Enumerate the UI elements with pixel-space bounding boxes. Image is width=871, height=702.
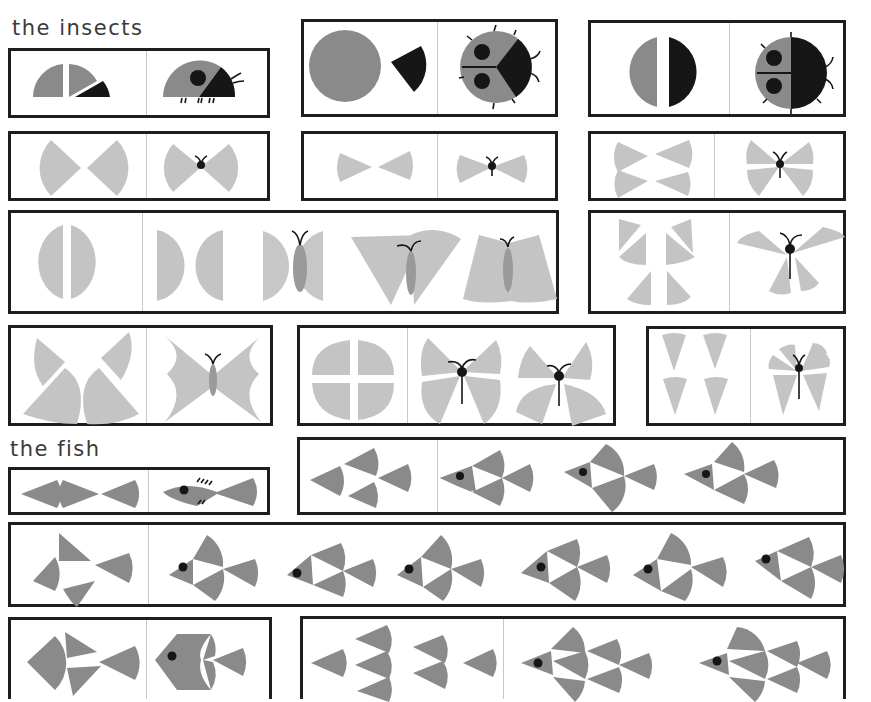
butterfly-cross-panel	[8, 325, 273, 426]
butterfly-6-piece-panel	[588, 210, 846, 314]
butterfly-2-sector-panel	[8, 131, 270, 201]
ladybug-side-illustration	[11, 51, 273, 121]
butterfly-4-sector-panel	[588, 131, 846, 201]
fish-4-sector-panel	[297, 437, 846, 515]
fish-7-sector-panel	[300, 616, 846, 699]
fish-4-round-illustration	[11, 620, 275, 702]
fish-7-sector-illustration	[303, 619, 849, 702]
butterfly-halves-illustration	[11, 213, 562, 317]
ladybug-top-illustration-2	[591, 23, 849, 120]
ladybug-top-panel-2	[588, 20, 846, 117]
butterfly-quarters-panel	[297, 325, 616, 426]
ladybug-side-panel	[8, 48, 270, 118]
ladybug-top-panel-1	[301, 19, 558, 117]
butterfly-triangles-illustration	[649, 329, 849, 429]
fish-4-sector-illustration	[300, 440, 849, 518]
butterfly-4-sector-illustration	[591, 134, 849, 204]
butterfly-quarters-illustration	[300, 328, 619, 429]
butterfly-cross-illustration	[11, 328, 276, 429]
fish-4-scatter-illustration	[11, 525, 849, 610]
fish-3-sector-panel	[8, 467, 270, 515]
section-title-insects: the insects	[12, 16, 143, 40]
butterfly-triangles-panel	[646, 326, 846, 426]
fish-4-round-panel	[8, 617, 272, 699]
butterfly-2-narrow-illustration	[304, 134, 561, 204]
section-title-fish: the fish	[10, 437, 101, 461]
fish-3-sector-illustration	[11, 470, 273, 518]
butterfly-2-sector-illustration	[11, 134, 273, 204]
fish-4-scatter-panel	[8, 522, 846, 607]
butterfly-2-narrow-panel	[301, 131, 558, 201]
butterfly-6-piece-illustration	[591, 213, 849, 317]
ladybug-top-illustration-1	[304, 22, 561, 120]
butterfly-halves-panel	[8, 210, 559, 314]
